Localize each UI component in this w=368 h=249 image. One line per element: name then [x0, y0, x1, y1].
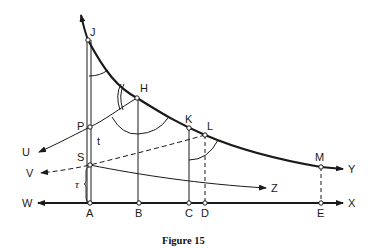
label-u: U: [22, 146, 30, 158]
figure-caption: Figure 15: [162, 235, 205, 246]
label-v: V: [26, 167, 34, 179]
point-a: [88, 201, 92, 205]
label-y: Y: [348, 163, 356, 175]
label-c: C: [185, 207, 193, 219]
label-m: M: [315, 151, 324, 163]
label-w: W: [22, 197, 33, 209]
point-k: [187, 126, 191, 130]
point-m: [319, 165, 323, 169]
point-e: [319, 201, 323, 205]
curve-z: [90, 165, 266, 188]
angle-arc-h-lower: [112, 117, 168, 134]
label-a: A: [86, 207, 94, 219]
angle-arc-k: [189, 140, 218, 160]
curve-arrow-top: [81, 15, 88, 40]
label-p: P: [77, 120, 84, 132]
label-j: J: [90, 26, 96, 38]
point-p: [88, 125, 92, 129]
label-z: Z: [271, 182, 278, 194]
label-s: S: [77, 151, 84, 163]
point-l: [203, 133, 207, 137]
label-l: L: [207, 120, 213, 132]
curve-v-dashed: [41, 135, 205, 173]
label-d: D: [201, 207, 209, 219]
label-e: E: [317, 207, 324, 219]
geometry-diagram: J H K L M P S A B C D E U V W X Y Z t τ …: [0, 0, 368, 249]
point-j: [86, 38, 90, 42]
point-b: [137, 201, 141, 205]
label-tau: τ: [75, 178, 80, 190]
label-k: K: [185, 113, 193, 125]
point-s: [88, 163, 92, 167]
label-t: t: [97, 135, 100, 147]
point-c: [187, 201, 191, 205]
angle-arc-j: [89, 70, 108, 76]
label-b: B: [135, 207, 142, 219]
label-x: X: [348, 197, 356, 209]
point-d: [203, 201, 207, 205]
point-h: [135, 96, 139, 100]
label-h: H: [140, 82, 148, 94]
